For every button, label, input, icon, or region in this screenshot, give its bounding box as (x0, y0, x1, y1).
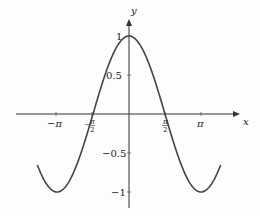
svg-text:π: π (89, 118, 95, 126)
x-tick-pi: π (196, 118, 204, 129)
y-axis-label: y (130, 5, 137, 16)
y-tick-0-5: 0.5 (106, 70, 122, 81)
x-axis-label: x (243, 116, 249, 127)
svg-text:2: 2 (163, 126, 167, 134)
y-tick-1: 1 (116, 31, 122, 42)
x-tick-neg-pi: −π (47, 118, 62, 129)
x-axis-arrow-icon (233, 111, 240, 117)
y-tick-neg-0-5: −0.5 (102, 148, 126, 159)
y-axis-arrow-icon (126, 19, 132, 26)
x-tick-neg-half-pi: − π 2 (84, 118, 95, 134)
cosine-plot: y x −π − π 2 π 2 π 1 0.5 −0.5 −1 (0, 0, 260, 216)
svg-text:π: π (162, 118, 168, 126)
y-tick-neg-1: −1 (111, 187, 126, 198)
svg-text:2: 2 (90, 126, 94, 134)
x-tick-half-pi: π 2 (162, 118, 168, 134)
